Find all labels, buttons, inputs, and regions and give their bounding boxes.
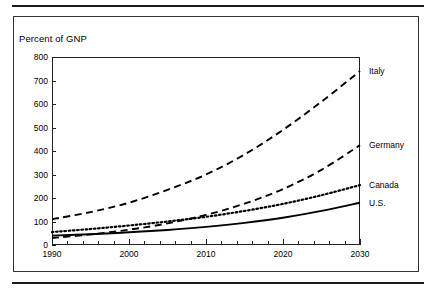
x-tick-mark-minor bbox=[175, 241, 176, 245]
y-tick-mark bbox=[52, 245, 56, 246]
y-tick-label: 200 bbox=[34, 193, 48, 203]
x-tick-mark-minor bbox=[314, 241, 315, 245]
x-tick-label: 2000 bbox=[120, 249, 139, 259]
figure-page: Percent of GNP 0100200300400500600700800… bbox=[0, 0, 436, 292]
y-axis-caption: Percent of GNP bbox=[19, 33, 87, 44]
x-tick-mark-minor bbox=[67, 241, 68, 245]
y-tick-label: 700 bbox=[34, 76, 48, 86]
x-tick-mark-major bbox=[52, 239, 53, 245]
series-line-us bbox=[52, 203, 360, 236]
y-tick-mark bbox=[52, 128, 56, 129]
series-label-italy: Italy bbox=[369, 66, 385, 76]
series-line-canada bbox=[52, 185, 360, 232]
y-tick-mark bbox=[52, 151, 56, 152]
bottom-rule bbox=[12, 282, 424, 284]
x-tick-label: 2010 bbox=[197, 249, 216, 259]
x-tick-mark-minor bbox=[221, 241, 222, 245]
y-tick-label: 500 bbox=[34, 123, 48, 133]
series-label-us: U.S. bbox=[369, 198, 386, 208]
top-rule bbox=[12, 5, 424, 7]
x-tick-label: 1990 bbox=[43, 249, 62, 259]
y-tick-mark bbox=[52, 198, 56, 199]
x-tick-mark-major bbox=[129, 239, 130, 245]
series-curves bbox=[52, 57, 360, 245]
y-tick-label: 400 bbox=[34, 146, 48, 156]
x-tick-mark-minor bbox=[329, 241, 330, 245]
y-tick-mark bbox=[52, 222, 56, 223]
x-tick-mark-minor bbox=[98, 241, 99, 245]
x-tick-mark-minor bbox=[252, 241, 253, 245]
y-tick-mark bbox=[52, 104, 56, 105]
x-tick-mark-minor bbox=[345, 241, 346, 245]
x-tick-mark-major bbox=[360, 239, 361, 245]
series-label-canada: Canada bbox=[369, 180, 399, 190]
x-tick-label: 2030 bbox=[351, 249, 370, 259]
x-tick-mark-minor bbox=[114, 241, 115, 245]
y-tick-label: 100 bbox=[34, 217, 48, 227]
y-tick-label: 300 bbox=[34, 170, 48, 180]
x-tick-label: 2020 bbox=[274, 249, 293, 259]
x-tick-mark-major bbox=[206, 239, 207, 245]
x-tick-mark-minor bbox=[191, 241, 192, 245]
series-line-germany bbox=[52, 145, 360, 238]
series-label-germany: Germany bbox=[369, 140, 404, 150]
y-tick-label: 600 bbox=[34, 99, 48, 109]
plot-area bbox=[52, 57, 360, 245]
x-tick-mark-minor bbox=[83, 241, 84, 245]
x-tick-mark-minor bbox=[268, 241, 269, 245]
y-tick-label: 800 bbox=[34, 52, 48, 62]
x-tick-mark-minor bbox=[237, 241, 238, 245]
y-tick-mark bbox=[52, 175, 56, 176]
x-tick-mark-major bbox=[283, 239, 284, 245]
x-tick-mark-minor bbox=[298, 241, 299, 245]
x-tick-mark-minor bbox=[144, 241, 145, 245]
x-tick-mark-minor bbox=[160, 241, 161, 245]
y-tick-mark bbox=[52, 81, 56, 82]
